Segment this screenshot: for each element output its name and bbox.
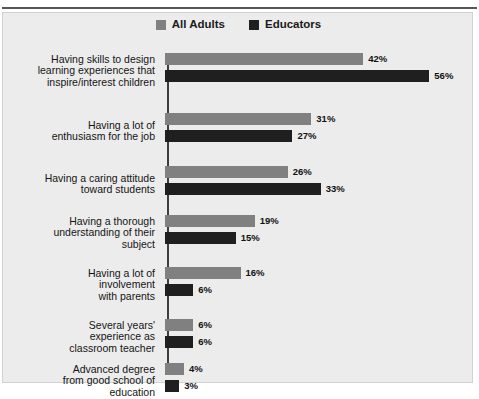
bar-row-label: Having skills to design learning experie… bbox=[3, 54, 161, 89]
bar-value-all-adults: 4% bbox=[189, 364, 203, 374]
bar-line-all-adults: 31% bbox=[165, 113, 474, 125]
bar-educators bbox=[165, 70, 429, 82]
bar-row: Having a lot of enthusiasm for the job31… bbox=[3, 113, 474, 149]
bar-row-label: Several years' experience as classroom t… bbox=[3, 320, 161, 355]
bar-line-educators: 33% bbox=[165, 183, 474, 195]
bar-educators bbox=[165, 130, 292, 142]
bar-value-educators: 33% bbox=[326, 184, 345, 194]
bar-row-bars: 31%27% bbox=[161, 113, 474, 149]
bar-value-educators: 6% bbox=[198, 285, 212, 295]
bar-row: Having a lot of involvement with parents… bbox=[3, 267, 474, 303]
bar-educators bbox=[165, 336, 193, 348]
bar-line-all-adults: 4% bbox=[165, 363, 474, 375]
bar-value-all-adults: 31% bbox=[316, 114, 335, 124]
bar-value-all-adults: 26% bbox=[293, 167, 312, 177]
bar-all-adults bbox=[165, 53, 363, 65]
bar-value-all-adults: 42% bbox=[368, 54, 387, 64]
bar-line-all-adults: 42% bbox=[165, 53, 474, 65]
bar-row-label: Having a caring attitude toward students bbox=[3, 173, 161, 196]
bar-line-all-adults: 16% bbox=[165, 267, 474, 279]
bar-all-adults bbox=[165, 166, 288, 178]
bar-line-all-adults: 6% bbox=[165, 319, 474, 331]
bar-all-adults bbox=[165, 363, 184, 375]
bar-row-bars: 6%6% bbox=[161, 319, 474, 355]
bar-row-bars: 42%56% bbox=[161, 53, 474, 89]
bar-value-educators: 15% bbox=[241, 233, 260, 243]
bar-all-adults bbox=[165, 267, 241, 279]
legend-entry-all-adults: All Adults bbox=[156, 19, 225, 31]
bar-row: Having a caring attitude toward students… bbox=[3, 166, 474, 202]
bar-line-educators: 27% bbox=[165, 130, 474, 142]
bar-value-educators: 56% bbox=[434, 71, 453, 81]
bar-row: Having a thorough understanding of their… bbox=[3, 215, 474, 251]
legend-entry-educators: Educators bbox=[249, 19, 321, 31]
bar-value-educators: 3% bbox=[184, 381, 198, 391]
bar-all-adults bbox=[165, 215, 255, 227]
bar-value-all-adults: 16% bbox=[246, 268, 265, 278]
bar-line-educators: 56% bbox=[165, 70, 474, 82]
bar-row: Several years' experience as classroom t… bbox=[3, 319, 474, 355]
chart-plate: All Adults Educators Having skills to de… bbox=[2, 12, 473, 383]
bar-line-educators: 15% bbox=[165, 232, 474, 244]
bar-line-all-adults: 19% bbox=[165, 215, 474, 227]
bar-educators bbox=[165, 284, 193, 296]
bar-row: Having skills to design learning experie… bbox=[3, 53, 474, 89]
bar-all-adults bbox=[165, 113, 311, 125]
bar-row-bars: 4%3% bbox=[161, 363, 474, 399]
bar-educators bbox=[165, 380, 179, 392]
legend-swatch-all-adults bbox=[156, 20, 166, 30]
title-divider-rule bbox=[2, 7, 477, 9]
bar-row-label: Having a thorough understanding of their… bbox=[3, 216, 161, 251]
bar-line-educators: 6% bbox=[165, 336, 474, 348]
bar-line-educators: 6% bbox=[165, 284, 474, 296]
plot-area: Having skills to design learning experie… bbox=[3, 39, 474, 382]
bar-educators bbox=[165, 232, 236, 244]
bar-row-label: Having a lot of involvement with parents bbox=[3, 268, 161, 303]
legend-label-all-adults: All Adults bbox=[172, 19, 225, 31]
bar-row-bars: 16%6% bbox=[161, 267, 474, 303]
bar-row-bars: 26%33% bbox=[161, 166, 474, 202]
bar-all-adults bbox=[165, 319, 193, 331]
chart-title bbox=[0, 0, 479, 7]
bar-value-all-adults: 19% bbox=[260, 216, 279, 226]
bar-educators bbox=[165, 183, 321, 195]
bar-row-label: Having a lot of enthusiasm for the job bbox=[3, 120, 161, 143]
bar-row: Advanced degree from good school of educ… bbox=[3, 363, 474, 399]
legend-swatch-educators bbox=[249, 20, 259, 30]
chart-legend: All Adults Educators bbox=[3, 19, 474, 31]
bar-value-all-adults: 6% bbox=[198, 320, 212, 330]
bar-row-bars: 19%15% bbox=[161, 215, 474, 251]
bar-value-educators: 27% bbox=[297, 131, 316, 141]
bar-line-educators: 3% bbox=[165, 380, 474, 392]
bar-line-all-adults: 26% bbox=[165, 166, 474, 178]
bar-value-educators: 6% bbox=[198, 337, 212, 347]
bar-row-label: Advanced degree from good school of educ… bbox=[3, 364, 161, 399]
legend-label-educators: Educators bbox=[265, 19, 321, 31]
